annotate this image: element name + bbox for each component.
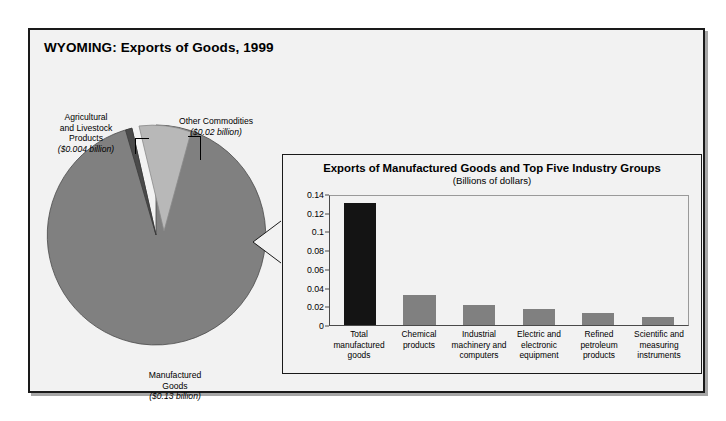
pie-label-manufactured: Manufactured Goods ($0.13 billion) <box>115 360 235 402</box>
y-axis-tick-label: 0 <box>319 321 324 331</box>
x-axis-tick-label: Total manufactured goods <box>329 329 389 361</box>
pie-chart: Agricultural and Livestock Products ($0.… <box>30 30 320 395</box>
bar <box>523 309 555 325</box>
bar <box>403 295 435 325</box>
x-axis-tick-label: Scientific and measuring instruments <box>629 329 689 361</box>
bar <box>344 203 376 325</box>
x-axis-tick-label: Chemical products <box>389 329 449 361</box>
y-axis-tick-label: 0.06 <box>307 265 324 275</box>
plot-area <box>329 195 689 326</box>
pie-label-agricultural-name: Agricultural and Livestock Products <box>60 112 113 143</box>
plot-wrapper: 00.020.040.060.080.10.120.14 Total manuf… <box>283 193 701 375</box>
inset-chart-title: Exports of Manufactured Goods and Top Fi… <box>283 162 701 174</box>
bar <box>582 313 614 325</box>
x-axis-tick-label: Industrial machinery and computers <box>449 329 509 361</box>
inset-bar-chart-panel: Exports of Manufactured Goods and Top Fi… <box>282 154 702 374</box>
pie-label-agricultural-amount: ($0.004 billion) <box>58 144 114 154</box>
bar-slot <box>449 196 508 325</box>
callout-connector-icon <box>252 216 286 268</box>
pie-label-other-name: Other Commodities <box>179 116 253 126</box>
bar-series <box>330 196 688 325</box>
y-axis: 00.020.040.060.080.10.120.14 <box>283 195 329 326</box>
bar-slot <box>569 196 628 325</box>
y-axis-tick-label: 0.04 <box>307 284 324 294</box>
bar-slot <box>628 196 687 325</box>
leader-line-agricultural-horizontal <box>135 138 149 139</box>
y-axis-tick-label: 0.02 <box>307 302 324 312</box>
x-axis-tick-label: Electric and electronic equipment <box>509 329 569 361</box>
y-axis-tick-label: 0.12 <box>307 209 324 219</box>
bar-slot <box>330 196 389 325</box>
bar <box>463 305 495 325</box>
y-axis-tick-label: 0.14 <box>307 190 324 200</box>
y-axis-tick-label: 0.08 <box>307 246 324 256</box>
y-axis-tick-label: 0.1 <box>312 227 324 237</box>
bar <box>642 317 674 325</box>
leader-line-other-vertical <box>200 136 201 160</box>
pie-label-other-commodities: Other Commodities ($0.02 billion) <box>164 106 268 137</box>
x-axis-labels: Total manufactured goodsChemical product… <box>329 329 689 361</box>
x-axis-tick-label: Refined petroleum products <box>569 329 629 361</box>
bar-slot <box>509 196 568 325</box>
leader-line-agricultural-vertical <box>135 138 136 154</box>
pie-label-other-amount: ($0.02 billion) <box>190 127 242 137</box>
figure-frame: WYOMING: Exports of Goods, 1999 Agricult… <box>28 28 705 393</box>
pie-label-agricultural: Agricultural and Livestock Products ($0.… <box>38 102 134 154</box>
inset-chart-subtitle: (Billions of dollars) <box>283 175 701 186</box>
pie-label-manufactured-name: Manufactured Goods <box>149 370 202 390</box>
pie-label-manufactured-amount: ($0.13 billion) <box>149 391 201 401</box>
bar-slot <box>390 196 449 325</box>
